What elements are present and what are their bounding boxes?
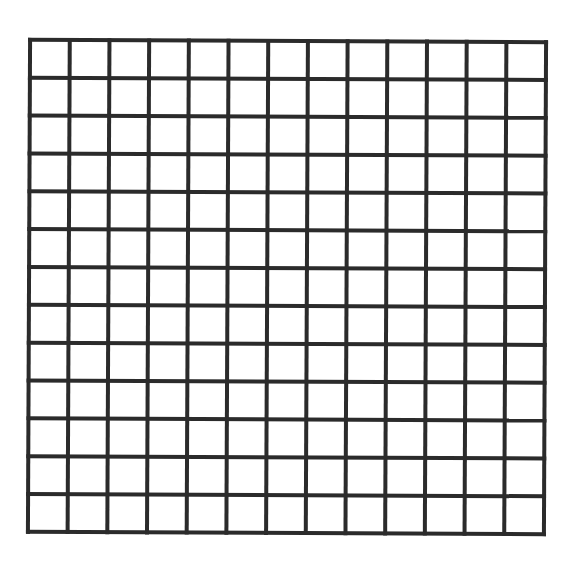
grid-horizontal-line: [28, 153, 548, 155]
grid-vertical-line: [544, 40, 546, 536]
grid-vertical-line: [425, 40, 427, 536]
grid-vertical-line: [187, 39, 189, 535]
grid-horizontal-line: [28, 78, 548, 80]
grid-lines: [0, 0, 575, 563]
grid-vertical-line: [504, 40, 506, 536]
grid-horizontal-line: [26, 456, 546, 458]
grid-figure: [0, 0, 575, 563]
grid-vertical-line: [465, 40, 467, 536]
grid-vertical-line: [226, 39, 228, 535]
grid-horizontal-line: [26, 532, 546, 534]
grid-vertical-line: [28, 38, 30, 534]
grid-vertical-line: [266, 39, 268, 535]
grid-horizontal-line: [27, 229, 547, 231]
grid-vertical-line: [147, 38, 149, 534]
grid-vertical-line: [345, 39, 347, 535]
grid-horizontal-line: [28, 116, 548, 118]
grid-horizontal-line: [26, 418, 546, 420]
grid-horizontal-line: [27, 267, 547, 269]
grid-horizontal-line: [27, 380, 547, 382]
grid-horizontal-line: [28, 40, 548, 42]
grid-horizontal-line: [27, 305, 547, 307]
grid-vertical-line: [107, 38, 109, 534]
grid-vertical-line: [68, 38, 70, 534]
grid-horizontal-line: [27, 191, 547, 193]
grid-line-group: [26, 38, 548, 536]
grid-horizontal-line: [27, 343, 547, 345]
grid-vertical-line: [385, 39, 387, 535]
grid-vertical-line: [306, 39, 308, 535]
grid-horizontal-line: [26, 494, 546, 496]
